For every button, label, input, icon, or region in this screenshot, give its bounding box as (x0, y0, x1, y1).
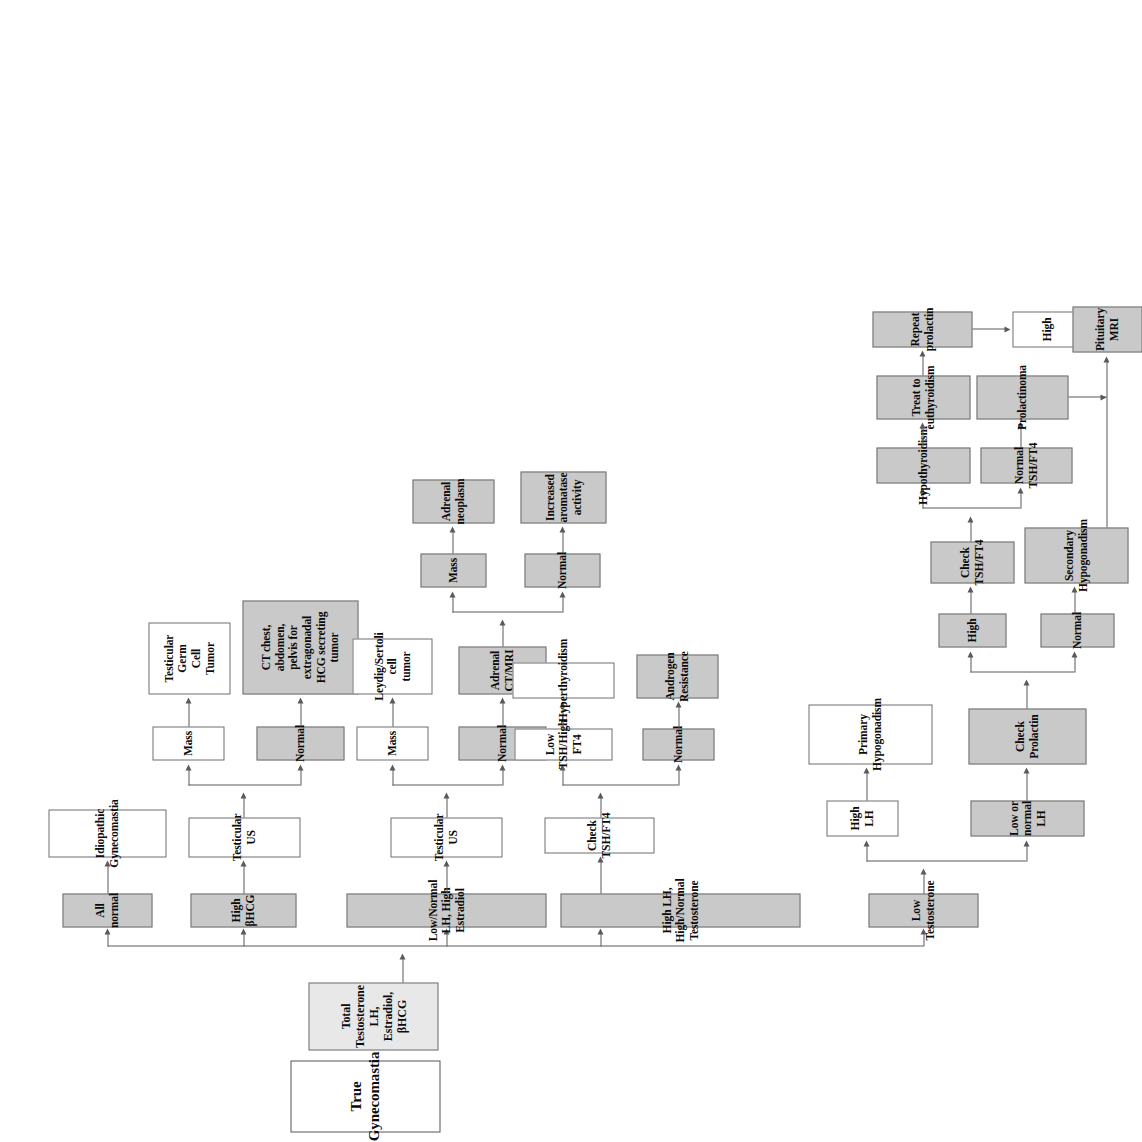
connector-bus-to-high-bhcg (243, 933, 244, 946)
node-mass-estradiol: Mass (356, 726, 428, 760)
node-androgen-resistance: Androgen Resistance (636, 654, 718, 698)
connector-us-bhcg-to-mass (188, 769, 189, 785)
connector-tsh-to-low-high-ft4 (562, 769, 563, 785)
arrow-prolactin-to-normal (1071, 651, 1077, 657)
connector-bhcg-to-us (243, 865, 244, 893)
bus-checktsh-prolactin (922, 507, 1020, 508)
bus-us-bhcg (188, 784, 300, 785)
connector-secondary-to-pituitary (1106, 361, 1107, 527)
node-adrenal-normal: Normal (524, 553, 600, 587)
arrow-adrenal-out (499, 619, 505, 625)
node-low-or-normal-lh: Low or normal LH (970, 800, 1084, 836)
connector-all-normal-to-idiopathic (107, 865, 108, 893)
connector-prolactin-to-high (970, 656, 971, 672)
arrow-to-all-normal (104, 928, 110, 934)
node-check-tsh-ft4-androgen: Check TSH/FT4 (544, 817, 654, 853)
node-leydig-sertoli-cell-tumor: Leydig/Sertoli cell tumor (352, 638, 432, 694)
node-low-tsh-high-ft4: Low TSH/High FT4 (514, 728, 612, 760)
connector-adrenal-out (502, 624, 503, 646)
node-prolactin-high: High (938, 613, 1006, 647)
node-normal-tsh-ft4: Normal TSH/FT4 (980, 447, 1072, 483)
arrow-normal-to-ct-extragonadal (297, 697, 303, 703)
node-testicular-us-bhcg: Testicular US (188, 817, 300, 857)
node-pituitary-mri-box: Pituitary MRI (1072, 306, 1142, 352)
connector-normal-to-androgen-resistance (678, 706, 679, 728)
connector-lowt-to-high-lh (866, 845, 867, 861)
node-idiopathic-gynecomastia: Idiopathic Gynecomastia (48, 809, 166, 857)
arrow-adrenal-mass-to-neoplasm (449, 526, 455, 532)
connector-us-estradiol-to-normal (502, 769, 503, 785)
connector-highlh-to-primary-hypogonadism (866, 772, 867, 800)
node-ct-chest-abdomen-pelvis: CT chest, abdomen, pelvis for extragonad… (242, 600, 358, 694)
arrow-us-estradiol-out (443, 792, 449, 798)
arrow-tsh-to-normal (675, 764, 681, 770)
node-check-prolactin: Check Prolactin (968, 708, 1086, 764)
arrow-us-bhcg-to-mass (185, 764, 191, 770)
arrow-secondary-to-pituitary (1103, 356, 1109, 362)
arrow-lowt-out (920, 868, 926, 874)
connector-highlh-to-checktsh (600, 861, 601, 893)
bus-prolactin (970, 671, 1074, 672)
node-all-normal: All normal (62, 893, 152, 927)
node-prolactin-normal: Normal (1040, 613, 1114, 647)
connector-bus-to-high-lh (600, 933, 601, 946)
node-mass-bhcg: Mass (152, 726, 224, 760)
arrow-us-bhcg-to-normal (297, 764, 303, 770)
bus-us-estradiol (392, 784, 502, 785)
arrow-prolactin-out (1023, 679, 1029, 685)
connector-prolactin-out (1026, 684, 1027, 708)
node-repeat-prolactin: Repeat prolactin (872, 311, 972, 347)
arrow-us-estradiol-to-normal (499, 764, 505, 770)
node-hypothyroidism: Hypothyroidism (876, 447, 970, 483)
connector-mass-to-germ-cell (188, 702, 189, 726)
arrow-checktsh-androgen-out (597, 792, 603, 798)
bus-adrenal (452, 611, 562, 612)
node-high-lh: High LH (826, 800, 898, 836)
node-low-testosterone: Low Testosterone (868, 893, 978, 927)
arrow-normal-to-adrenal (499, 697, 505, 703)
connector-adrenal-normal-to-aromatase (562, 531, 563, 553)
arrow-to-high-bhcg (240, 928, 246, 934)
connector-adrenal-to-normal (562, 596, 563, 612)
arrow-adrenal-to-normal (559, 591, 565, 597)
connector-to-normal-tsh-ft4 (1020, 492, 1021, 508)
connector-mass-to-leydig (392, 702, 393, 726)
node-tsh-normal: Normal (642, 728, 714, 760)
node-testicular-germ-cell-tumor: Testicular Germ Cell Tumor (148, 622, 230, 694)
arrow-us-estradiol-to-mass (389, 764, 395, 770)
arrow-normal-to-androgen-resistance (675, 701, 681, 707)
node-check-tsh-ft4-prolactin: Check TSH/FT4 (930, 541, 1014, 583)
connector-normal-to-ct-extragonadal (300, 702, 301, 726)
connector-lowt-to-low-normal-lh (1026, 845, 1027, 861)
connector-us-bhcg-to-normal (300, 769, 301, 785)
arrow-root-to-trunk (399, 953, 405, 959)
connector-adrenal-to-mass (452, 596, 453, 612)
arrow-adrenal-normal-to-aromatase (559, 526, 565, 532)
connector-lownormallh-to-check-prolactin (1026, 772, 1027, 800)
connector-normal-to-adrenal (502, 702, 503, 726)
arrow-prolactinoma-down (1100, 395, 1106, 401)
arrow-to-high-lh-high-normal-t (597, 928, 603, 934)
arrow-adrenal-to-mass (449, 591, 455, 597)
node-high-bhcg: High βHCG (190, 893, 296, 927)
connector-tsh-to-normal (678, 769, 679, 785)
arrow-lowt-to-low-normal-lh (1023, 840, 1029, 846)
connector-root-to-trunk (402, 958, 403, 982)
connector-us-estradiol-to-mass (392, 769, 393, 785)
node-hyperthyroidism: Hyperthyroidism (512, 662, 614, 698)
arrow-repeat-to-high (1004, 327, 1010, 333)
bus-checktsh-androgen (562, 784, 678, 785)
arrow-checktsh-prolactin-out (967, 516, 973, 522)
connector-estradiol-to-us (446, 865, 447, 893)
arrow-mass-to-germ-cell (185, 697, 191, 703)
node-normal-bhcg: Normal (256, 726, 344, 760)
node-high-lh-high-normal-testosterone: High LH, High/Normal Testosterone (560, 893, 800, 927)
node-increased-aromatase-activity: Increased aromatase activity (520, 471, 606, 523)
connector-high-to-check-tsh (970, 591, 971, 613)
node-secondary-hypogonadism: Secondary Hypogonadism (1024, 527, 1128, 583)
arrow-prolactin-to-high (967, 651, 973, 657)
connector-adrenal-mass-to-neoplasm (452, 531, 453, 553)
node-testicular-us-estradiol: Testicular US (390, 817, 502, 857)
